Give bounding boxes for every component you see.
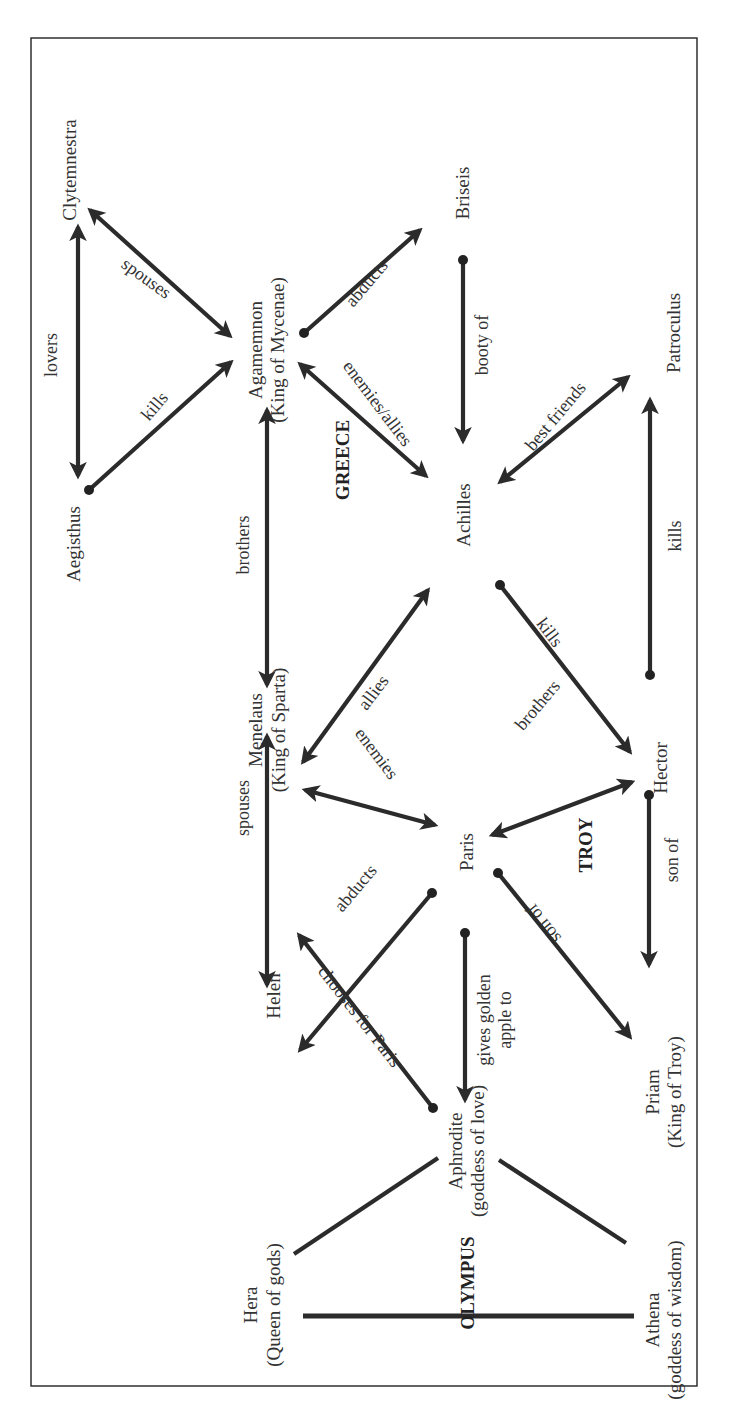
region-olympus: OLYMPUS bbox=[457, 1236, 478, 1329]
label-son-of-paris: son of bbox=[522, 900, 565, 947]
label-gives-golden-line1: gives golden bbox=[474, 974, 494, 1066]
edge-origin-dot bbox=[299, 328, 309, 338]
edge-origin-dot bbox=[428, 1103, 438, 1113]
edge-son-of-paris-priam bbox=[498, 873, 630, 1037]
node-hector: Hector bbox=[650, 741, 671, 793]
label-brothers-greek: brothers bbox=[233, 516, 253, 575]
label-gives-golden-line2: apple to bbox=[495, 991, 515, 1048]
edge-origin-dot bbox=[427, 888, 437, 898]
edge-origin-dot bbox=[645, 670, 655, 680]
node-agamemnon-title: (King of Mycenae) bbox=[267, 277, 289, 423]
edge-kills-aegisthus-agamemnon bbox=[89, 362, 231, 490]
node-agamemnon-name: Agamemnon bbox=[245, 300, 266, 399]
edge-origin-dot bbox=[495, 580, 505, 590]
relationship-diagram: Clytemnestra Aegisthus Agamemnon (King o… bbox=[0, 0, 729, 1421]
label-spouses-bottom: spouses bbox=[233, 780, 253, 836]
node-aphrodite-name: Aphrodite bbox=[445, 1112, 466, 1189]
node-achilles: Achilles bbox=[453, 483, 474, 546]
node-hera-title: (Queen of gods) bbox=[263, 1243, 285, 1366]
line-aphrodite-athena bbox=[499, 1160, 626, 1243]
label-enemies: enemies bbox=[351, 724, 402, 783]
label-abducts-helen: abducts bbox=[330, 861, 381, 916]
label-brothers-trojan: brothers bbox=[511, 676, 564, 734]
node-aphrodite-title: (goddess of love) bbox=[467, 1085, 489, 1217]
edge-spouses-clytemnestra-agamemnon bbox=[90, 210, 230, 336]
edge-origin-dot bbox=[460, 928, 470, 938]
label-booty-of: booty of bbox=[472, 315, 492, 376]
label-son-of-hector: son of bbox=[662, 838, 682, 883]
edge-brothers-paris-hector bbox=[492, 782, 632, 835]
node-priam-name: Priam bbox=[642, 1069, 663, 1115]
edge-origin-dot bbox=[458, 255, 468, 265]
label-abducts-briseis: abducts bbox=[341, 256, 392, 311]
node-menelaus-title: (King of Sparta) bbox=[268, 668, 290, 793]
label-kills-achilles-hector: kills bbox=[532, 614, 567, 651]
node-athena-name: Athena bbox=[642, 1292, 663, 1347]
node-paris: Paris bbox=[456, 833, 477, 871]
node-athena-title: (goddess of wisdom) bbox=[664, 1240, 686, 1399]
label-allies: allies bbox=[354, 671, 393, 713]
node-menelaus-name: Menelaus bbox=[245, 693, 266, 767]
line-aphrodite-hera bbox=[294, 1158, 438, 1254]
node-helen: Helen bbox=[263, 973, 284, 1019]
edge-enemies bbox=[305, 790, 435, 825]
node-priam-title: (King of Troy) bbox=[664, 1036, 686, 1148]
edge-origin-dot bbox=[493, 868, 503, 878]
node-hera-name: Hera bbox=[240, 1286, 261, 1323]
node-briseis: Briseis bbox=[452, 167, 473, 220]
edge-origin-dot bbox=[84, 485, 94, 495]
node-clytemnestra: Clytemnestra bbox=[59, 119, 80, 221]
node-aegisthus: Aegisthus bbox=[63, 506, 84, 582]
node-patroculus: Patroculus bbox=[663, 293, 684, 373]
region-greece: GREECE bbox=[332, 420, 353, 500]
label-kills-hector-patroculus: kills bbox=[665, 520, 685, 551]
region-troy: TROY bbox=[575, 817, 596, 872]
label-lovers: lovers bbox=[41, 333, 61, 377]
